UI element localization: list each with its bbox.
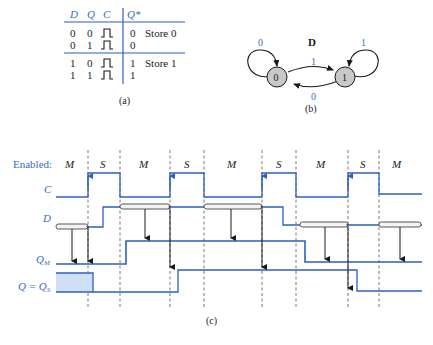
- signal-label-qm: QM: [36, 253, 51, 267]
- cell: 1: [130, 69, 136, 81]
- header-q: Q: [87, 8, 95, 20]
- pulse-icons: [101, 29, 113, 79]
- svg-text:x: x: [168, 204, 171, 210]
- cell: 0: [70, 39, 76, 51]
- cell: 0: [87, 57, 93, 69]
- cell: 1: [130, 57, 136, 69]
- phase-label: M: [315, 158, 326, 170]
- unknown-state-shade: [56, 273, 93, 292]
- phase-label: M: [138, 158, 149, 170]
- transition-0-to-1: [288, 66, 333, 72]
- cell: 1: [70, 69, 76, 81]
- state-1-label: 1: [342, 72, 347, 83]
- edge-01-label: 1: [311, 56, 316, 67]
- cell: 1: [70, 57, 76, 69]
- cell: 0: [87, 27, 93, 39]
- svg-text:x: x: [86, 224, 89, 230]
- phase-label: M: [64, 158, 75, 170]
- phase-dividers: [88, 150, 379, 308]
- enabled-label: Enabled:: [13, 158, 52, 170]
- sample-window: [120, 204, 170, 209]
- state-diagram: D 0 1 0 1 0 1 (b): [248, 36, 378, 115]
- note-store-1: Store 1: [145, 57, 176, 69]
- diagram-title: D: [308, 36, 316, 48]
- truth-table: D Q C Q* 0 0 0 Store 0 0 1 0 1 0 1 Store…: [64, 8, 185, 107]
- signal-label-qs: Q = QS: [18, 280, 51, 294]
- loop-1-label: 1: [361, 37, 366, 48]
- sample-window: [204, 204, 262, 209]
- state-0-label: 0: [274, 72, 279, 83]
- d-waveform: [56, 207, 422, 227]
- header-c: C: [103, 8, 111, 20]
- transfer-arrows: [72, 209, 400, 288]
- caption-c: (c): [206, 315, 217, 327]
- rising-edge-arrows: [88, 176, 348, 190]
- edge-10-label: 0: [311, 91, 316, 102]
- svg-text:x: x: [346, 222, 349, 228]
- signal-label-d: D: [42, 212, 51, 224]
- sample-window: [379, 222, 421, 227]
- pulse-icon: [101, 29, 113, 37]
- header-q-next: Q*: [127, 8, 141, 20]
- phase-label: S: [276, 158, 282, 170]
- cell: 0: [70, 27, 76, 39]
- cell: 0: [130, 27, 136, 39]
- caption-b: (b): [305, 103, 317, 115]
- pulse-icon: [101, 41, 113, 49]
- loop-0-label: 0: [258, 37, 263, 48]
- cell: 0: [130, 39, 136, 51]
- transition-1-to-0: [294, 81, 338, 87]
- sample-window: [56, 224, 88, 229]
- clock-waveform: [56, 173, 422, 197]
- signal-label-c: C: [44, 183, 52, 195]
- phase-label: S: [184, 158, 190, 170]
- phase-label: S: [100, 158, 106, 170]
- qs-waveform: [93, 270, 422, 292]
- phase-label: M: [391, 158, 402, 170]
- phase-label: S: [360, 158, 366, 170]
- cell: 1: [87, 39, 93, 51]
- cell: 1: [87, 69, 93, 81]
- timing-diagram: Enabled: M S M S M S M S M C D QM Q = QS: [13, 150, 422, 327]
- pulse-icon: [101, 71, 113, 79]
- sample-window: [300, 222, 348, 227]
- caption-a: (a): [119, 95, 130, 107]
- figure-canvas: D Q C Q* 0 0 0 Store 0 0 1 0 1 0 1 Store…: [0, 0, 433, 345]
- qm-waveform: [56, 241, 422, 264]
- svg-text:x: x: [260, 204, 263, 210]
- phase-label: M: [226, 158, 237, 170]
- pulse-icon: [101, 59, 113, 67]
- note-store-0: Store 0: [145, 27, 177, 39]
- header-d: D: [69, 8, 78, 20]
